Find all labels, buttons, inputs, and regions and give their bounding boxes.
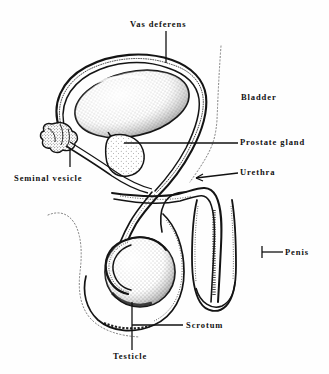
prostate-gland-organ: [106, 135, 144, 177]
label-scrotum: Scrotum: [186, 321, 223, 330]
label-vas-deferens: Vas deferens: [130, 20, 186, 29]
anatomy-diagram: Vas deferens Bladder Prostate gland Uret…: [0, 0, 329, 374]
anatomy-illustration: [0, 0, 329, 374]
label-seminal-vesicle: Seminal vesicle: [14, 174, 83, 183]
label-testicle: Testicle: [113, 352, 147, 361]
penis-organ: [161, 192, 236, 311]
label-penis: Penis: [285, 248, 309, 257]
bladder-organ: [68, 60, 195, 148]
label-bladder: Bladder: [241, 93, 277, 102]
seminal-vesicle-organ: [40, 122, 77, 152]
label-urethra: Urethra: [240, 168, 275, 177]
label-prostate-gland: Prostate gland: [240, 138, 305, 147]
